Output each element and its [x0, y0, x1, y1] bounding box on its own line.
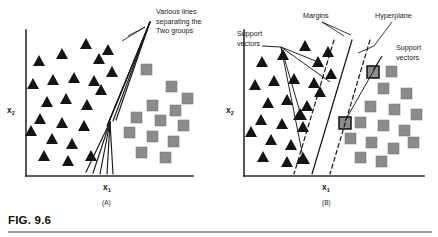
marker-square [366, 137, 377, 148]
panel-b: x2 x1 [226, 11, 424, 207]
panel-b-triangle-support-vectors [293, 108, 310, 164]
marker-square [376, 156, 387, 167]
marker-square [131, 112, 142, 123]
marker-triangle [33, 55, 45, 66]
marker-triangle [62, 155, 74, 166]
marker-triangle [60, 93, 72, 104]
marker-square [147, 131, 158, 142]
marker-square [141, 64, 152, 75]
marker-triangle [265, 134, 277, 145]
figure-canvas: x2 x1 [0, 0, 438, 237]
marker-square [401, 88, 412, 99]
marker-square [386, 66, 397, 77]
marker-square [355, 117, 366, 128]
marker-triangle [285, 139, 297, 150]
marker-square [365, 101, 376, 112]
marker-triangle [88, 75, 100, 86]
marker-triangle [38, 150, 50, 161]
marker-square [124, 127, 135, 138]
marker-triangle [81, 99, 93, 110]
margins-note: Margins [303, 11, 329, 20]
panel-a: x2 x1 [7, 7, 204, 207]
marker-triangle [41, 96, 53, 107]
panel-b-y-axis-label: x2 [226, 105, 234, 116]
panel-a-note-leaders [122, 27, 145, 41]
marker-square [182, 93, 193, 104]
panel-b-label: (B) [322, 199, 331, 207]
marker-triangle [68, 72, 80, 83]
marker-square [389, 104, 400, 115]
support-vectors-right-note: Support vectors [396, 43, 423, 62]
marker-triangle [299, 40, 311, 51]
panel-b-x-axis-label: x1 [322, 182, 330, 193]
marker-triangle [308, 77, 320, 88]
leader-line [281, 47, 330, 82]
panel-a-triangle-markers [25, 38, 118, 166]
marker-square [147, 100, 158, 111]
marker-triangle [66, 138, 78, 149]
marker-triangle [276, 118, 288, 129]
leader-line [128, 27, 145, 36]
panel-b-margin-leaders [322, 22, 351, 36]
separating-line [86, 122, 110, 172]
marker-triangle [262, 97, 274, 108]
caption-divider [8, 231, 432, 233]
hyperplane-leader-line [374, 22, 392, 46]
figure-caption: FIG. 9.6 [8, 214, 51, 226]
marker-triangle [27, 78, 39, 89]
marker-triangle [102, 44, 114, 55]
hyperplane-leader-line [358, 46, 374, 53]
marker-triangle [257, 151, 269, 162]
panel-a-x-axis-label: x1 [103, 182, 111, 193]
marker-square [160, 152, 171, 163]
marker-triangle [34, 113, 46, 124]
panel-a-y-axis-label: x2 [7, 105, 15, 116]
marker-square [378, 120, 389, 131]
leader-line [345, 56, 382, 121]
marker-square [399, 125, 410, 136]
marker-square [355, 152, 366, 163]
marker-square [378, 83, 389, 94]
marker-triangle [256, 56, 268, 67]
leader-line [322, 22, 351, 35]
marker-square [170, 105, 181, 116]
various-lines-note: Various lines separating the Two groups [156, 7, 204, 35]
marker-triangle [56, 117, 68, 128]
panel-b-right-sv-leaders [345, 56, 382, 121]
separating-line [110, 122, 113, 174]
panel-a-square-markers [124, 64, 193, 163]
marker-square [136, 147, 147, 158]
support-vectors-left-note: Support vectors [237, 29, 264, 48]
marker-triangle [301, 100, 313, 111]
marker-triangle [106, 66, 118, 77]
marker-square [178, 120, 189, 131]
marker-triangle [249, 79, 261, 90]
marker-triangle [47, 74, 59, 85]
marker-square [166, 81, 177, 92]
marker-square [388, 143, 399, 154]
marker-triangle [78, 120, 90, 131]
marker-triangle [46, 133, 58, 144]
figure-9-6: x2 x1 [0, 0, 438, 237]
marker-triangle [255, 114, 267, 125]
panel-b-triangle-markers [245, 40, 337, 167]
hyperplane-note: Hyperplane [375, 11, 412, 20]
marker-triangle [245, 126, 257, 137]
marker-square [155, 115, 166, 126]
marker-square [411, 109, 422, 120]
marker-square [168, 136, 179, 147]
marker-triangle [80, 38, 92, 49]
marker-triangle [281, 156, 293, 167]
marker-square [345, 133, 356, 144]
marker-triangle [268, 75, 280, 86]
marker-triangle [56, 48, 68, 59]
leader-line [262, 46, 281, 47]
marker-triangle [325, 68, 337, 79]
panel-a-label: (A) [102, 199, 111, 207]
marker-triangle-support-vector [296, 152, 310, 164]
leader-line [322, 22, 344, 36]
marker-square [408, 137, 419, 148]
panel-b-square-markers [345, 66, 422, 167]
